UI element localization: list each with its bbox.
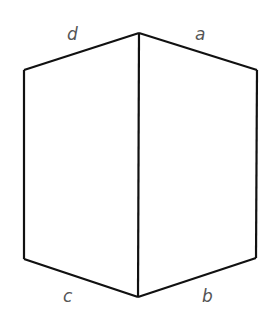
label-b: b	[202, 286, 213, 306]
edge-c	[24, 259, 138, 297]
prism-diagram: d a c b	[0, 0, 278, 322]
edge-b	[138, 258, 256, 297]
prism-outline	[24, 33, 257, 297]
edge-right-vertical	[256, 70, 257, 258]
label-d: d	[67, 24, 78, 44]
edge-center-fold	[138, 33, 139, 297]
label-a: a	[195, 24, 205, 44]
label-c: c	[63, 286, 73, 306]
edge-d	[24, 33, 139, 70]
